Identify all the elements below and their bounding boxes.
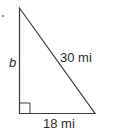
bullet-dot [2, 15, 4, 17]
triangle-diagram: b 30 mi 18 mi [0, 0, 115, 134]
right-angle-marker [20, 103, 31, 114]
label-hypotenuse: 30 mi [60, 50, 92, 65]
label-horizontal-leg: 18 mi [43, 116, 75, 131]
label-vertical-leg: b [9, 55, 16, 70]
